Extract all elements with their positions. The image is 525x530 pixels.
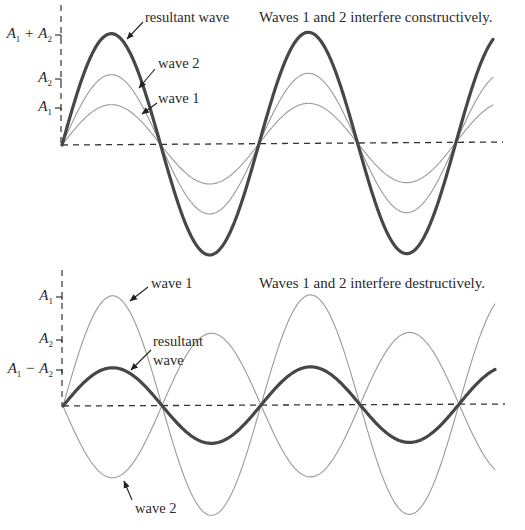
- label-resultant-wave-line2: wave: [153, 353, 184, 368]
- destructive-interference-panel: [56, 270, 505, 515]
- amplitude-label: A2: [39, 331, 53, 349]
- resultant-wave-curve: [63, 367, 495, 443]
- arrow-icon: [127, 22, 143, 39]
- resultant-wave-curve: [62, 32, 493, 255]
- amplitude-label: A2: [38, 70, 52, 88]
- label-resultant-wave: resultant: [153, 334, 203, 349]
- constructive-interference-panel: [55, 5, 503, 255]
- wave-2-curve: [62, 73, 493, 214]
- destructive-title: Waves 1 and 2 interfere destructively.: [259, 276, 485, 291]
- horizontal-axis: [63, 404, 505, 406]
- label-wave-1: wave 1: [151, 276, 192, 291]
- arrow-icon: [124, 481, 132, 500]
- interference-diagram: [0, 0, 525, 530]
- wave-1-curve: [62, 103, 493, 184]
- label-wave-2: wave 2: [158, 56, 199, 71]
- wave-2-curve: [63, 332, 495, 477]
- amplitude-label: A1: [39, 288, 53, 306]
- label-resultant-wave: resultant wave: [145, 10, 229, 25]
- label-wave-1: wave 1: [158, 91, 199, 106]
- arrow-icon: [130, 287, 148, 301]
- horizontal-axis: [62, 142, 503, 145]
- label-wave-2: wave 2: [135, 501, 176, 516]
- amplitude-label: A1 − A2: [8, 361, 53, 379]
- amplitude-label: A1 + A2: [7, 26, 52, 44]
- constructive-title: Waves 1 and 2 interfere constructively.: [259, 10, 493, 25]
- wave-1-curve: [63, 295, 495, 515]
- amplitude-label: A1: [38, 99, 52, 117]
